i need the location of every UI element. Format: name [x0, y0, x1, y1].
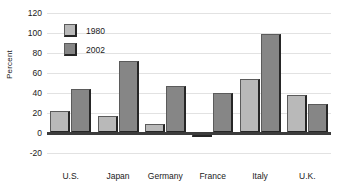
x-tick-label: Japan [106, 171, 129, 181]
bar [166, 86, 186, 133]
x-tick-label: U.K. [299, 171, 316, 181]
y-tick-label: 0 [37, 128, 42, 138]
gridline [47, 153, 331, 154]
bar [98, 116, 118, 133]
x-tick-label: U.S. [62, 171, 79, 181]
legend-item: 2002 [64, 40, 105, 59]
legend: 19802002 [64, 21, 105, 59]
y-tick-label: 40 [33, 88, 42, 98]
y-tick-label: 120 [28, 8, 42, 18]
y-axis-title: Percent [5, 35, 14, 95]
bar [308, 104, 328, 133]
legend-label: 1980 [86, 26, 105, 36]
legend-swatch-icon [64, 43, 77, 56]
y-tick-label: 60 [33, 68, 42, 78]
y-tick-label: 100 [28, 28, 42, 38]
x-tick-label: Germany [148, 171, 183, 181]
bar [71, 89, 91, 133]
zero-line [47, 132, 331, 135]
bar [119, 61, 139, 133]
bar [240, 79, 260, 133]
plot-area: -20020406080100120 U.S.JapanGermanyFranc… [47, 13, 331, 153]
y-tick-label: -20 [30, 148, 42, 158]
legend-label: 2002 [86, 45, 105, 55]
bar [287, 95, 307, 133]
x-tick-label: France [199, 171, 225, 181]
y-tick-label: 20 [33, 108, 42, 118]
legend-swatch-icon [64, 24, 77, 37]
bar [261, 34, 281, 133]
x-tick-label: Italy [252, 171, 268, 181]
y-tick-label: 80 [33, 48, 42, 58]
bar [213, 93, 233, 133]
bar-chart-figure: Percent -20020406080100120 U.S.JapanGerm… [0, 0, 337, 184]
legend-item: 1980 [64, 21, 105, 40]
bar [50, 111, 70, 133]
